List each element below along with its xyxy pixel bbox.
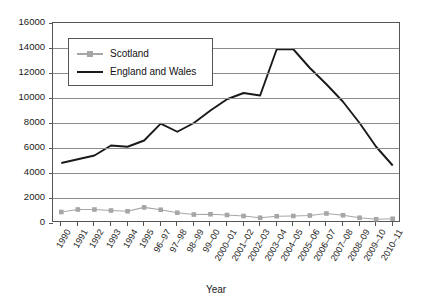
series-marker-scotland <box>109 208 114 213</box>
x-tick-mark <box>143 222 144 226</box>
x-tick-mark <box>93 222 94 226</box>
x-tick-mark <box>309 222 310 226</box>
x-tick-mark <box>276 222 277 226</box>
legend-swatch-england-and-wales <box>77 67 103 77</box>
x-tick-mark <box>193 222 194 226</box>
series-marker-scotland <box>175 210 180 215</box>
series-marker-scotland <box>92 207 97 212</box>
y-tick-mark <box>49 23 53 24</box>
series-marker-scotland <box>390 216 395 221</box>
y-tick-label: 12000 <box>0 67 45 77</box>
series-marker-scotland <box>357 215 362 220</box>
series-marker-scotland <box>142 205 147 210</box>
y-tick-mark <box>49 223 53 224</box>
series-marker-scotland <box>374 217 379 222</box>
x-tick-mark <box>127 222 128 226</box>
series-marker-scotland <box>324 211 329 216</box>
x-tick-mark <box>77 222 78 226</box>
y-tick-mark <box>49 98 53 99</box>
series-marker-scotland <box>125 209 130 214</box>
gridline <box>53 198 399 199</box>
series-marker-scotland <box>308 213 313 218</box>
series-marker-scotland <box>208 212 213 217</box>
chart-figure: Year Scotland England and Wales 02000400… <box>0 0 432 306</box>
x-tick-mark <box>243 222 244 226</box>
y-tick-mark <box>49 173 53 174</box>
y-tick-label: 16000 <box>0 17 45 27</box>
gridline <box>53 173 399 174</box>
series-marker-scotland <box>274 214 279 219</box>
x-tick-mark <box>110 222 111 226</box>
series-marker-scotland <box>158 207 163 212</box>
legend-swatch-scotland <box>77 49 103 59</box>
x-tick-mark <box>259 222 260 226</box>
y-tick-label: 2000 <box>0 192 45 202</box>
gridline <box>53 148 399 149</box>
gridline <box>53 98 399 99</box>
legend-item-scotland: Scotland <box>77 45 204 63</box>
series-marker-scotland <box>341 213 346 218</box>
series-marker-scotland <box>192 212 197 217</box>
x-tick-mark <box>160 222 161 226</box>
legend-label-scotland: Scotland <box>110 49 149 59</box>
y-tick-mark <box>49 148 53 149</box>
y-tick-mark <box>49 73 53 74</box>
y-tick-label: 4000 <box>0 167 45 177</box>
y-tick-label: 0 <box>0 217 45 227</box>
legend-label-england-and-wales: England and Wales <box>110 67 196 77</box>
x-tick-mark <box>375 222 376 226</box>
y-tick-label: 8000 <box>0 117 45 127</box>
x-tick-mark <box>325 222 326 226</box>
series-marker-scotland <box>76 207 81 212</box>
series-marker-scotland <box>258 215 263 220</box>
y-tick-mark <box>49 123 53 124</box>
x-tick-mark <box>60 222 61 226</box>
x-tick-mark <box>226 222 227 226</box>
series-marker-scotland <box>291 214 296 219</box>
y-tick-mark <box>49 48 53 49</box>
x-tick-mark <box>342 222 343 226</box>
y-tick-mark <box>49 198 53 199</box>
y-tick-label: 10000 <box>0 92 45 102</box>
x-tick-mark <box>176 222 177 226</box>
x-tick-mark <box>209 222 210 226</box>
x-tick-mark <box>359 222 360 226</box>
series-marker-scotland <box>225 213 230 218</box>
series-marker-scotland <box>59 210 64 215</box>
y-tick-label: 14000 <box>0 42 45 52</box>
chart-legend: Scotland England and Wales <box>68 38 213 86</box>
y-tick-label: 6000 <box>0 142 45 152</box>
x-tick-mark <box>292 222 293 226</box>
series-marker-scotland <box>241 214 246 219</box>
gridline <box>53 123 399 124</box>
x-tick-mark <box>392 222 393 226</box>
legend-item-england-and-wales: England and Wales <box>77 63 204 81</box>
